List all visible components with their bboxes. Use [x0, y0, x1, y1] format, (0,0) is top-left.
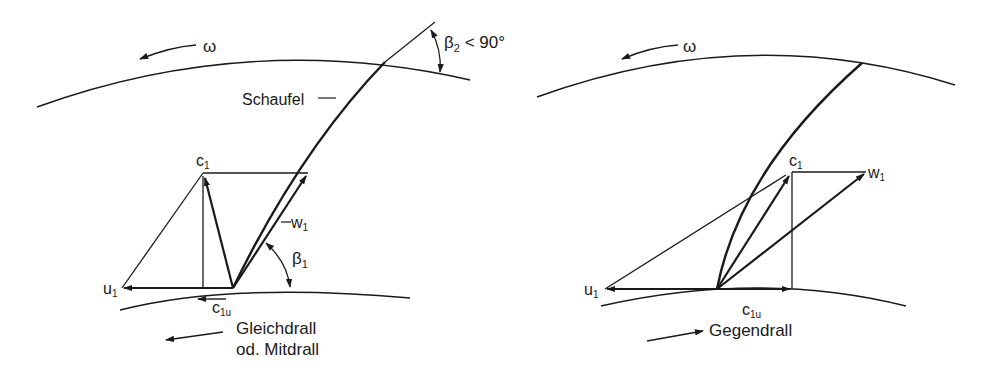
w1-label-left: w1	[290, 214, 309, 233]
blade-exit-tangent	[385, 22, 435, 62]
c1u-label-right: c1u	[742, 301, 761, 320]
gegendrall-direction-arrow	[647, 331, 703, 341]
c1-label-left: c1	[196, 152, 210, 171]
u1-label-left: u1	[103, 280, 118, 299]
u1-label-right: u1	[584, 281, 599, 300]
c1-to-u1-line	[122, 173, 203, 288]
w1-label-right: w1	[867, 164, 886, 183]
left-diagram-gleichdrall	[37, 22, 470, 340]
inner-rim-arc	[601, 288, 906, 306]
beta1-label: β1	[292, 249, 308, 270]
omega-label-right: ω	[683, 37, 696, 56]
omega-rotation-arrow	[140, 45, 196, 59]
gleichdrall-direction-arrow	[166, 332, 223, 340]
left-labels: ω β2 < 90° Schaufel c1 w1 β1 u1 c1u Glei…	[103, 33, 505, 359]
gegendrall-caption: Gegendrall	[709, 321, 792, 340]
beta2-label: β2 < 90°	[444, 33, 505, 54]
w1-vector	[233, 176, 306, 288]
schaufel-label: Schaufel	[242, 91, 304, 108]
beta1-angle-arc	[266, 243, 290, 287]
beta2-angle-arc	[431, 30, 440, 72]
gleichdrall-caption: Gleichdrall	[236, 319, 316, 338]
omega-rotation-arrow	[622, 45, 678, 59]
w1-vector	[717, 174, 864, 289]
u1-to-c1-line	[605, 175, 786, 289]
velocity-triangle-diagram: ω β2 < 90° Schaufel c1 w1 β1 u1 c1u Glei…	[0, 0, 986, 373]
right-diagram-gegendrall	[537, 45, 955, 341]
c1-vector	[205, 178, 233, 288]
c1-label-right: c1	[789, 152, 803, 171]
omega-label-left: ω	[203, 37, 216, 56]
inner-rim-arc	[120, 292, 410, 310]
outer-rim-arc	[537, 55, 955, 97]
c1u-label-left: c1u	[212, 299, 231, 318]
mitdrall-caption: od. Mitdrall	[236, 340, 319, 359]
